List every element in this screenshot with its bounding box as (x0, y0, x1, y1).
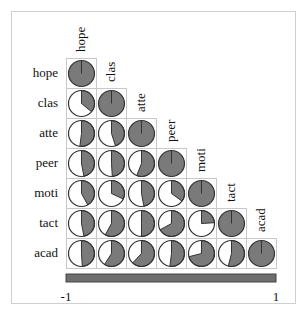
colorbar-max-label: 1 (273, 289, 280, 304)
pie-moti-peer (159, 181, 185, 207)
pie-atte-atte (129, 121, 155, 147)
pie-moti-hope (69, 181, 95, 207)
pie-tact-hope (69, 211, 95, 237)
pie-clas-clas (99, 91, 125, 117)
row-label-atte: atte (39, 125, 58, 140)
pie-tact-tact (219, 211, 245, 237)
row-label-hope: hope (33, 65, 59, 80)
pie-peer-atte (129, 151, 155, 177)
row-label-peer: peer (36, 155, 59, 170)
pie-slice (170, 241, 185, 267)
pie-slice (82, 241, 95, 267)
pie-acad-moti (189, 241, 215, 267)
col-label-atte: atte (133, 93, 148, 112)
correlogram-chart: hopehopeclasclasatteattepeerpeermotimoti… (0, 0, 304, 314)
pie-layer (69, 61, 275, 267)
pie-tact-moti (189, 211, 215, 237)
pie-acad-tact (219, 241, 245, 267)
col-label-tact: tact (223, 183, 238, 202)
pie-tact-peer (159, 211, 185, 237)
pie-slice (112, 151, 125, 177)
pie-atte-clas (99, 121, 125, 147)
row-label-moti: moti (34, 185, 58, 200)
pie-slice (82, 211, 95, 237)
pie-moti-clas (99, 181, 125, 207)
pie-clas-hope (69, 91, 95, 117)
pie-slice (142, 181, 155, 207)
pie-acad-clas (99, 241, 125, 267)
pie-acad-acad (249, 241, 275, 267)
col-label-clas: clas (103, 62, 118, 82)
pie-acad-peer (159, 241, 185, 267)
pie-peer-peer (159, 151, 185, 177)
col-label-hope: hope (73, 27, 88, 53)
row-label-acad: acad (34, 245, 58, 260)
pie-slice (142, 211, 155, 237)
row-label-tact: tact (39, 215, 58, 230)
colorbar (66, 274, 276, 282)
colorbar-min-label: -1 (61, 289, 72, 304)
pie-slice (82, 151, 95, 177)
col-label-moti: moti (193, 148, 208, 172)
pie-slice (80, 121, 95, 147)
col-label-acad: acad (253, 208, 268, 232)
pie-hope-hope (69, 61, 95, 87)
pie-moti-moti (189, 181, 215, 207)
pie-peer-clas (99, 151, 125, 177)
row-label-clas: clas (38, 95, 58, 110)
pie-tact-clas (99, 211, 125, 237)
pie-tact-atte (129, 211, 155, 237)
pie-acad-hope (69, 241, 95, 267)
pie-acad-atte (129, 241, 155, 267)
pie-atte-hope (69, 121, 95, 147)
col-label-peer: peer (163, 119, 178, 142)
pie-peer-hope (69, 151, 95, 177)
pie-moti-atte (129, 181, 155, 207)
